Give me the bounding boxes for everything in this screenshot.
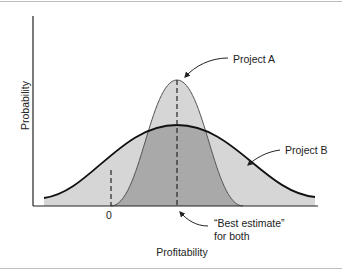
zero-tick-label: 0 [106, 209, 112, 221]
y-axis-label: Probability [19, 80, 31, 130]
best-estimate-arrow [180, 212, 208, 226]
best-estimate-label: “Best estimate” [214, 217, 285, 229]
project-b-label: Project B [285, 144, 328, 156]
project-a-arrow [185, 58, 228, 77]
best-estimate-label-2: for both [214, 230, 250, 242]
x-axis-label: Profitability [156, 246, 208, 258]
probability-chart: Probability Profitability 0 Project A Pr… [0, 0, 342, 274]
project-a-label: Project A [233, 53, 275, 65]
